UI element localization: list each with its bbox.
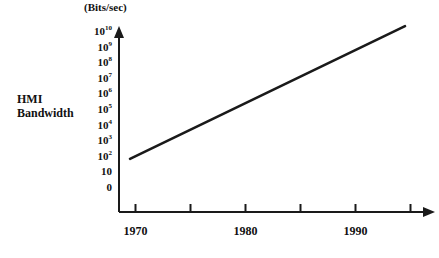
x-axis-ticks	[136, 204, 411, 212]
data-line-hmi-bandwidth	[130, 26, 405, 159]
axes-group	[114, 26, 435, 217]
x-axis-arrowhead	[423, 207, 435, 217]
data-series-group	[130, 26, 405, 159]
y-axis-arrowhead	[114, 26, 124, 38]
plot-area	[0, 0, 439, 258]
chart-container: (Bits/sec) HMI Bandwidth 101010910810710…	[0, 0, 439, 258]
